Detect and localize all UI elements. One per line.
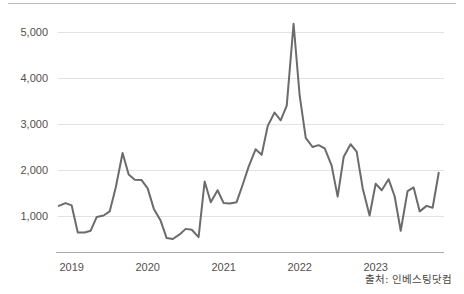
y-tick-labels-group: 1,0002,0003,0004,0005,000 <box>20 26 48 222</box>
data-series-group <box>59 24 439 239</box>
y-tick-label: 1,000 <box>20 210 48 222</box>
chart-container: 1,0002,0003,0004,0005,000 20192020202120… <box>0 0 464 294</box>
y-tick-label: 2,000 <box>20 164 48 176</box>
x-tick-label: 2021 <box>211 261 235 273</box>
y-tick-label: 3,000 <box>20 118 48 130</box>
x-tick-label: 2022 <box>287 261 311 273</box>
x-tick-labels-group: 20192020202120222023 <box>59 261 387 273</box>
x-tick-label: 2020 <box>135 261 159 273</box>
data-line-series <box>59 24 439 239</box>
source-attribution: 출처: 인베스팅닷컴 <box>365 271 452 286</box>
line-chart-svg: 1,0002,0003,0004,0005,000 20192020202120… <box>0 0 464 294</box>
y-tick-label: 5,000 <box>20 26 48 38</box>
y-tick-label: 4,000 <box>20 72 48 84</box>
x-tick-label: 2019 <box>59 261 83 273</box>
